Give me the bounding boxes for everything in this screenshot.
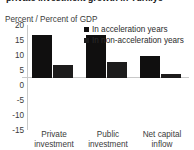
y-tick-label: -5 (0, 96, 24, 105)
y-tick-label: -10 (0, 111, 24, 120)
bar (32, 35, 52, 78)
chart-legend: In acceleration yearsIn non-acceleration… (84, 24, 184, 46)
bar (107, 62, 127, 79)
x-category-label-line: investment (81, 140, 135, 150)
x-category-label-line: inflow (135, 140, 189, 150)
bar (161, 74, 181, 79)
legend-swatch-icon (84, 27, 89, 32)
y-tick-label: 15 (0, 36, 24, 45)
y-tick-label: 0 (0, 81, 24, 90)
y-axis-tick-labels: 20151050-5-10-15 (0, 25, 24, 130)
x-category-label: Net capitalinflow (135, 130, 189, 149)
legend-label: In non-acceleration years (92, 35, 184, 46)
x-category-label-line: investment (27, 140, 81, 150)
chart-container: private investment growth in Türkiye Per… (0, 0, 194, 149)
x-category-label-line: Private (27, 130, 81, 140)
bar-group (32, 25, 86, 130)
y-tick-label: -15 (0, 126, 24, 135)
x-category-label-line: Net capital (135, 130, 189, 140)
x-category-label: Publicinvestment (81, 130, 135, 149)
legend-item[interactable]: In acceleration years (84, 24, 184, 35)
y-tick-label: 10 (0, 51, 24, 60)
legend-label: In acceleration years (92, 24, 168, 35)
bar (53, 65, 73, 78)
x-category-label: Privateinvestment (27, 130, 81, 149)
y-tick-label: 20 (0, 21, 24, 30)
legend-item[interactable]: In non-acceleration years (84, 35, 184, 46)
x-category-label-line: Public (81, 130, 135, 140)
y-tick-label: 5 (0, 66, 24, 75)
x-axis-category-labels: PrivateinvestmentPublicinvestmentNet cap… (27, 130, 189, 149)
bar (140, 56, 160, 78)
legend-swatch-icon (84, 38, 89, 43)
chart-title: private investment growth in Türkiye (6, 0, 194, 3)
